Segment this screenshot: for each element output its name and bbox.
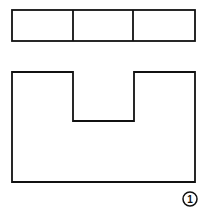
label-number: 1 (187, 194, 193, 205)
front-view (12, 72, 195, 182)
front-view-u-shape (12, 72, 195, 182)
top-view (12, 10, 195, 41)
projection-diagram: 1 (0, 0, 210, 219)
figure-label: 1 (183, 192, 197, 206)
top-view-outline (12, 10, 195, 41)
